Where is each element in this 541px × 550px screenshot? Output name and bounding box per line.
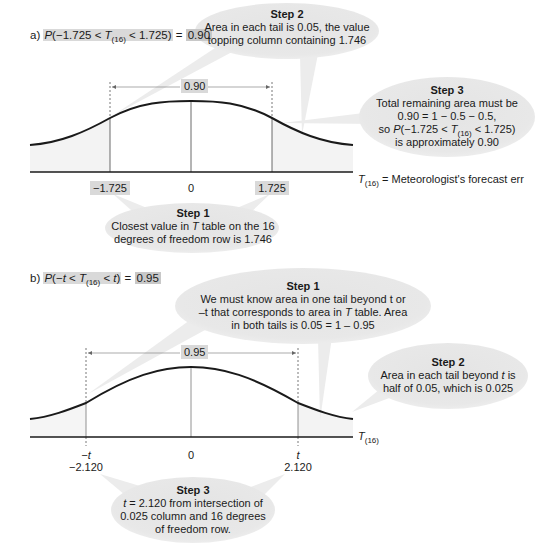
right-tail-shade: [272, 118, 353, 172]
panel-b-axis-label: T(16): [358, 430, 379, 443]
tick-b-left: −t −2.120: [56, 449, 116, 473]
step1-callout-b: Step 1 We must know area in one tail bey…: [178, 280, 428, 332]
step2-callout-a: Step 2 Area in each tail is 0.05, the va…: [197, 8, 377, 47]
tick-b-center: 0: [161, 449, 221, 461]
panel-b-prob-expression: P(−t < T(16) < t): [43, 272, 121, 284]
step3-callout-a: Step 3 Total remaining area must be 0.90…: [357, 84, 537, 149]
step3-callout-b: Step 3 t = 2.120 from intersection of 0.…: [113, 484, 273, 536]
tick-b-right: t 2.120: [268, 449, 328, 473]
right-tail-shade-b: [298, 403, 353, 437]
left-tail-shade: [30, 118, 110, 172]
panel-a-label: a): [30, 29, 40, 41]
tick-a-center: 0: [161, 182, 221, 194]
tick-a-left: −1.725: [80, 182, 140, 194]
panel-b-title: b) P(−t < T(16) < t) = 0.95: [30, 272, 161, 285]
panel-a-span-label: 0.90: [181, 80, 208, 93]
panel-b-result: 0.95: [135, 272, 161, 284]
tick-a-right: 1.725: [242, 182, 302, 194]
step1b-pointer-right: [318, 337, 332, 420]
panel-b-span-label: 0.95: [181, 346, 208, 359]
step1-callout-a: Step 1 Closest value in T table on the 1…: [107, 207, 279, 246]
panel-a-prob-expression: P(−1.725 < T(16) < 1.725): [43, 29, 172, 41]
panel-a-title: a) P(−1.725 < T(16) < 1.725) = 0.90: [30, 29, 212, 42]
panel-b-label: b): [30, 272, 40, 284]
step2-pointer-a: [112, 48, 232, 116]
panel-a-legend: T(16) = Meteorologist's forecast err: [358, 173, 524, 186]
step2-callout-b: Step 2 Area in each tail beyond t is hal…: [368, 356, 528, 395]
left-tail-shade-b: [30, 403, 86, 437]
